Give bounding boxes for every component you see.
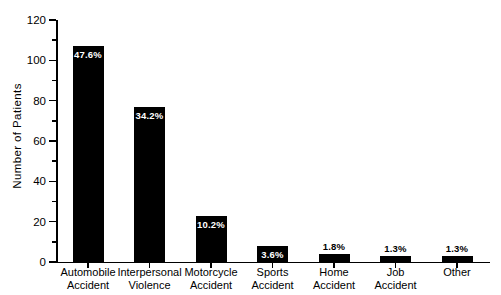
bar-value-label: 47.6%	[73, 49, 104, 60]
y-axis-major-tick	[49, 100, 56, 101]
bar: 34.2%	[134, 107, 165, 262]
y-axis-tick-label: 60	[2, 135, 46, 147]
y-axis-major-tick	[49, 261, 56, 262]
bar: 10.2%	[196, 216, 227, 262]
x-axis-category-label: Other	[418, 266, 496, 279]
bar	[319, 254, 350, 262]
y-axis-major-tick	[49, 60, 56, 61]
bar-value-label: 1.3%	[427, 243, 487, 254]
bar-chart: Number of Patients 020406080100120 47.6%…	[0, 0, 501, 295]
y-axis-tick-label: 120	[2, 14, 46, 26]
bar: 47.6%	[73, 46, 104, 262]
bar-value-label: 10.2%	[196, 219, 227, 230]
bar-value-label: 1.8%	[304, 241, 364, 252]
y-axis-major-tick	[49, 19, 56, 20]
bar-value-label: 34.2%	[134, 110, 165, 121]
y-axis-major-tick	[49, 221, 56, 222]
y-axis-tick-label: 0	[2, 256, 46, 268]
bar	[442, 256, 473, 262]
y-axis-tick-label: 100	[2, 54, 46, 66]
y-axis-tick-label: 40	[2, 175, 46, 187]
y-axis-line	[56, 20, 58, 263]
y-axis-tick-label: 20	[2, 216, 46, 228]
y-axis-tick-label: 80	[2, 95, 46, 107]
bar: 3.6%	[257, 246, 288, 262]
category-label-line: Accident	[357, 279, 435, 292]
bar	[380, 256, 411, 262]
bar-value-label: 3.6%	[257, 249, 288, 260]
y-axis-major-tick	[49, 181, 56, 182]
y-axis-tick-labels: 020406080100120	[0, 0, 46, 295]
y-axis-major-tick	[49, 140, 56, 141]
category-label-line: Other	[418, 266, 496, 279]
bar-value-label: 1.3%	[366, 243, 426, 254]
